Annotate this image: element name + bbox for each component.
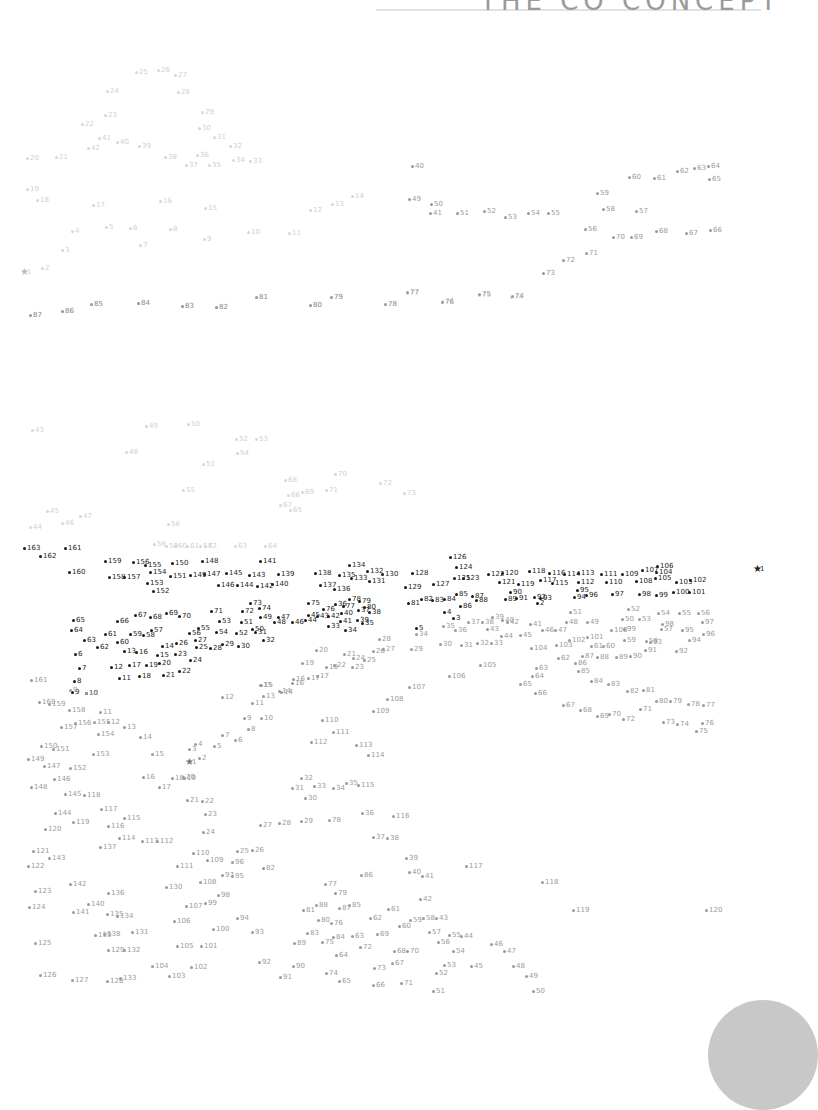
dot-number-label: 146 [57, 776, 70, 783]
dot-number-label: 16 [139, 649, 148, 656]
dot-number-label: 86 [463, 603, 472, 610]
dot [255, 438, 258, 441]
dot-number-label: 50 [191, 421, 200, 428]
dot [61, 522, 64, 525]
dot-number-label: 80 [367, 604, 376, 611]
dot-number-label: 64 [711, 163, 720, 170]
dot [107, 825, 110, 828]
dot-number-label: 93 [543, 595, 552, 602]
dot-number-label: 63 [87, 637, 96, 644]
dot [110, 666, 113, 669]
dot [470, 965, 473, 968]
dot-number-label: 84 [447, 596, 456, 603]
dot-number-label: 120 [48, 826, 61, 833]
dot-number-label: 22 [182, 668, 191, 675]
dot [236, 917, 239, 920]
dot-number-label: 154 [101, 731, 114, 738]
dot-number-label: 91 [648, 647, 657, 654]
dot-number-label: 118 [532, 568, 545, 575]
dot-number-label: 69 [634, 234, 643, 241]
dot-number-label: 81 [306, 907, 315, 914]
dot-number-label: 71 [589, 250, 598, 257]
dot-number-label: 77 [328, 881, 337, 888]
dot [459, 605, 462, 608]
dot [185, 905, 188, 908]
dot-number-label: 155 [97, 719, 110, 726]
dot [373, 967, 376, 970]
dot-number-label: 49 [590, 619, 599, 626]
dot [358, 600, 361, 603]
dot [453, 577, 456, 580]
dot-number-label: 129 [408, 584, 421, 591]
dot-number-label: 69 [380, 931, 389, 938]
dot [131, 931, 134, 934]
dot [644, 649, 647, 652]
dot-number-label: 153 [96, 751, 109, 758]
dot [529, 623, 532, 626]
dot-number-label: 6 [238, 737, 242, 744]
dot [611, 593, 614, 596]
dot [657, 612, 660, 615]
dot [443, 598, 446, 601]
dot [202, 831, 205, 834]
dot-number-label: 96 [589, 592, 598, 599]
dot-number-label: 70 [616, 234, 625, 241]
dot [206, 859, 209, 862]
dot-number-label: 9 [247, 715, 251, 722]
dot [638, 618, 641, 621]
dot [142, 776, 145, 779]
dot-number-label: 94 [692, 637, 701, 644]
dot [386, 698, 389, 701]
dot-number-label: 139 [98, 932, 111, 939]
dot-number-label: 4 [198, 741, 202, 748]
dot-number-label: 33 [317, 783, 326, 790]
dot [186, 799, 189, 802]
dot [431, 599, 434, 602]
dot [264, 545, 267, 548]
dot-number-label: 47 [83, 513, 92, 520]
dot [586, 621, 589, 624]
dot [195, 646, 198, 649]
dot [392, 815, 395, 818]
dot [171, 777, 174, 780]
dot [486, 628, 489, 631]
dot-number-label: 84 [594, 678, 603, 685]
dot-number-label: 73 [666, 719, 675, 726]
dot-number-label: 21 [166, 672, 175, 679]
dot-number-label: 2 [202, 755, 206, 762]
dot [135, 71, 138, 74]
dot-number-label: 14 [165, 643, 174, 650]
page-number-badge [708, 1000, 818, 1110]
dot [675, 650, 678, 653]
dot [74, 653, 77, 656]
dot-number-label: 85 [352, 902, 361, 909]
dot [217, 584, 220, 587]
dot [355, 744, 358, 747]
dot [548, 572, 551, 575]
dot-number-label: 1 [192, 759, 196, 766]
dot [186, 545, 189, 548]
dot-number-label: 79 [334, 294, 343, 301]
dot-number-label: 61 [594, 643, 603, 650]
dot [174, 74, 177, 77]
dot-number-label: 97 [225, 872, 234, 879]
dot-number-label: 60 [606, 643, 615, 650]
dot-number-label: 59 [600, 190, 609, 197]
dot-number-label: 27 [263, 822, 272, 829]
dot-number-label: 37 [376, 834, 385, 841]
dot-number-label: 138 [318, 570, 331, 577]
dot [483, 210, 486, 213]
dot [87, 147, 90, 150]
dot-number-label: 19 [30, 186, 39, 193]
dot-number-label: 18 [142, 673, 151, 680]
dot [378, 638, 381, 641]
dot-number-label: 100 [614, 627, 627, 634]
dot-number-label: 70 [410, 948, 419, 955]
dot [707, 165, 710, 168]
dot-number-label: 44 [504, 633, 513, 640]
dot [83, 794, 86, 797]
dot [241, 610, 244, 613]
dot [169, 575, 172, 578]
dot-number-label: 23 [108, 112, 117, 119]
dot [129, 227, 132, 230]
